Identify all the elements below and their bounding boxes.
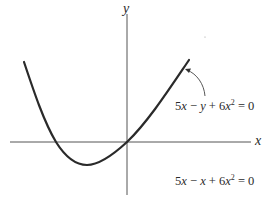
parabola-diagram: y x 5x − y + 6x2 = 0 5x − x + 6x2 = 0 [0,0,272,205]
x-axis-label: x [255,134,261,148]
speck [204,36,205,37]
arrowhead-icon [185,69,191,74]
y-axis-label: y [123,2,129,16]
parabola-curve [24,60,189,165]
curve-equation-label: 5x − y + 6x2 = 0 [175,99,254,113]
annotation-arrow [187,70,205,96]
other-equation-label: 5x − x + 6x2 = 0 [175,174,254,188]
